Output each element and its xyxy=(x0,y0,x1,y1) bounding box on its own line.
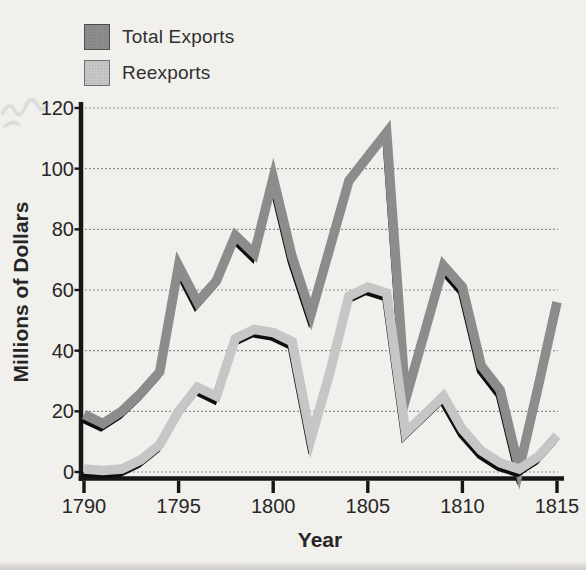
x-tick-label: 1815 xyxy=(535,495,580,517)
y-tick-label: 100 xyxy=(41,158,74,180)
x-tick-label: 1795 xyxy=(156,495,201,517)
y-tick-label: 120 xyxy=(41,97,74,119)
x-tick-label: 1790 xyxy=(62,495,107,517)
y-tick-label: 0 xyxy=(63,461,74,483)
chart-figure: Total Exports Reexports 0204060801001201… xyxy=(0,0,586,570)
x-axis-title: Year xyxy=(298,528,342,551)
y-tick-label: 80 xyxy=(52,218,74,240)
y-axis-title: Millions of Dollars xyxy=(9,202,32,383)
y-tick-label: 60 xyxy=(52,279,74,301)
x-tick-label: 1810 xyxy=(440,495,485,517)
x-tick-label: 1800 xyxy=(251,495,296,517)
x-tick-label: 1805 xyxy=(346,495,391,517)
chart-canvas: 020406080100120179017951800180518101815M… xyxy=(0,0,586,570)
y-tick-label: 40 xyxy=(52,340,74,362)
y-tick-label: 20 xyxy=(52,400,74,422)
